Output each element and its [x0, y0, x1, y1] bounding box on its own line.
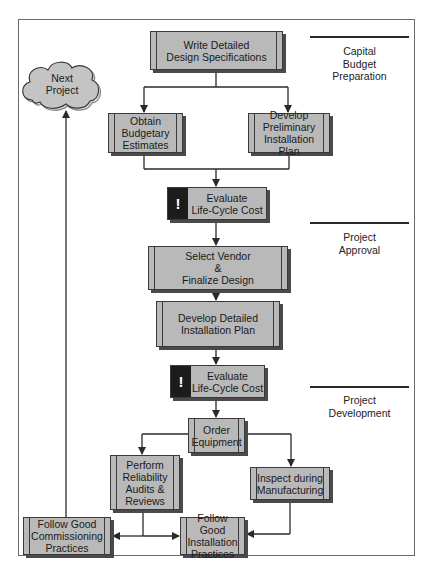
next-project-cloud: Next Project	[22, 72, 102, 96]
node-order-equipment: Order Equipment	[188, 418, 245, 453]
phase-divider-project-approval	[310, 222, 409, 224]
node-evaluate-life-cycle-cost-2: ! Evaluate Life-Cycle Cost	[170, 365, 265, 398]
phase-label-project-approval: Project Approval	[310, 231, 409, 256]
node-develop-preliminary-plan: Develop Preliminary Installation Plan	[248, 113, 330, 153]
node-follow-good-installation: Follow Good Installation Practices	[180, 517, 245, 555]
node-develop-detailed-plan: Develop Detailed Installation Plan	[156, 301, 280, 347]
node-write-design-specifications: Write Detailed Design Specifications	[150, 31, 283, 70]
phase-label-capital-budget: Capital Budget Preparation	[310, 45, 409, 83]
alert-icon: !	[168, 188, 188, 219]
phase-label-project-development: Project Development	[310, 394, 409, 419]
node-obtain-budgetary-estimates: Obtain Budgetary Estimates	[108, 113, 183, 153]
phase-divider-capital-budget	[310, 36, 409, 38]
node-follow-good-commissioning: Follow Good Commissioning Practices	[23, 517, 111, 555]
phase-divider-project-development	[310, 386, 409, 388]
alert-icon: !	[171, 366, 191, 397]
node-perform-reliability-audits: Perform Reliability Audits & Reviews	[110, 455, 180, 510]
node-evaluate-life-cycle-cost-1: ! Evaluate Life-Cycle Cost	[167, 187, 267, 220]
node-select-vendor: Select Vendor & Finalize Design	[148, 246, 288, 290]
node-inspect-during-manufacturing: Inspect during Manufacturing	[250, 467, 330, 500]
